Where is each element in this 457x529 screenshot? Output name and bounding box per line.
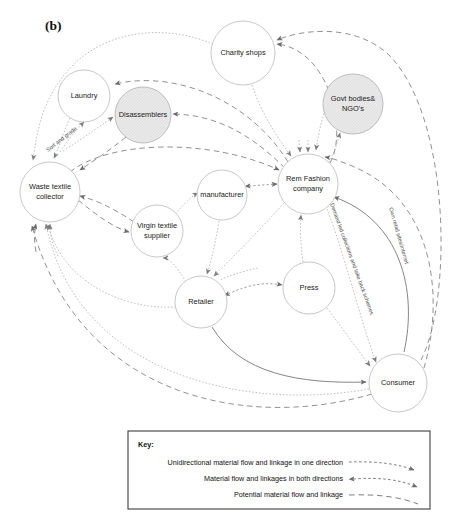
node-charity_shops[interactable]: Charity shops [211, 21, 275, 85]
reverse-logistics-network-diagram: (b) [0, 0, 457, 529]
edge-retailer-feed [220, 268, 258, 280]
node-rem_fashion[interactable]: Rem Fashioncompany [278, 154, 338, 214]
edge-label-layer: Sort and grade Demand led collections an… [45, 125, 410, 315]
edge-press-to-rem [300, 215, 303, 262]
node-label-consumer: Consumer [381, 378, 416, 387]
node-govt_ngo[interactable]: Govt bodies&NGO's [323, 74, 383, 134]
node-disassemblers[interactable]: Disassemblers [115, 87, 171, 143]
node-manufacturer[interactable]: manufacturer [197, 170, 247, 220]
node-label-retailer: Retailer [188, 297, 214, 306]
edge-inbound-rem-1 [299, 140, 300, 152]
key-entry-bidirectional-label: Material flow and linkages in both direc… [204, 474, 343, 483]
edge-manufacturer-rem-bidirectional [249, 184, 277, 186]
node-label-rem_fashion: Rem Fashion [286, 174, 330, 183]
edge-charity-to-rem [252, 85, 291, 156]
edge-consumer-to-rem-potential [325, 157, 433, 368]
panel-label: (b) [45, 18, 62, 33]
node-label-virgin_textile: Virgin textile [137, 221, 177, 230]
edge-virgin-to-manufacturer [175, 193, 198, 214]
node-label-virgin_textile: supplier [144, 231, 170, 240]
node-label-govt_ngo: NGO's [342, 104, 364, 113]
node-label-manufacturer: manufacturer [200, 190, 244, 199]
node-waste_textile[interactable]: Waste textilecollector [20, 162, 80, 222]
edge-waste-to-rem [70, 147, 279, 172]
edge-label-sort-and-grade: Sort and grade [45, 125, 78, 153]
node-label-waste_textile: Waste textile [29, 182, 71, 191]
node-label-rem_fashion: company [293, 184, 323, 193]
key-entry-unidirectional-label: Unidirectional material flow and linkage… [168, 458, 343, 467]
edge-label-own-retail: Own retail sites/internet [388, 207, 410, 265]
edge-retailer-to-virgin [163, 258, 186, 282]
figure-panel: (b) [0, 0, 457, 529]
node-press[interactable]: Press [283, 262, 335, 314]
node-label-laundry: Laundry [71, 91, 98, 100]
key-title: Key: [138, 440, 154, 449]
edge-manufacturer-to-retailer [207, 221, 219, 274]
node-consumer[interactable]: Consumer [369, 354, 427, 412]
edge-virgin-to-waste [80, 196, 134, 222]
node-retailer[interactable]: Retailer [175, 276, 227, 328]
node-laundry[interactable]: Laundry [58, 70, 110, 122]
edge-waste-to-virgin [78, 200, 129, 232]
node-label-waste_textile: collector [36, 192, 64, 201]
node-label-disassemblers: Disassemblers [119, 110, 168, 119]
edge-disassemblers-to-waste [80, 137, 126, 170]
edge-bottom-to-waste-b [50, 224, 58, 256]
edge-retailer-press-bidirectional [228, 284, 282, 294]
key-legend: Key: Unidirectional material flow and li… [128, 431, 430, 509]
edge-rem-to-disassemblers [173, 114, 285, 168]
node-virgin_textile[interactable]: Virgin textilesupplier [131, 205, 183, 257]
node-label-press: Press [300, 283, 319, 292]
key-entry-potential-label: Potential material flow and linkage [234, 490, 343, 499]
node-label-govt_ngo: Govt bodies& [331, 94, 375, 103]
edge-press-to-consumer [327, 308, 370, 366]
node-layer: Charity shopsLaundryDisassemblersGovt bo… [20, 21, 427, 412]
node-label-charity_shops: Charity shops [220, 48, 265, 57]
edge-label-demand-led: Demand led collections and take back sch… [329, 202, 375, 315]
edge-retailer-to-consumer [212, 327, 366, 382]
